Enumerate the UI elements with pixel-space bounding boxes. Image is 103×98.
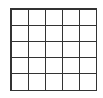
grid-cell[interactable]	[45, 9, 63, 26]
grid-cell[interactable]	[62, 25, 80, 42]
grid-cell[interactable]	[79, 73, 97, 90]
grid-cell[interactable]	[28, 73, 46, 90]
grid-cell[interactable]	[79, 41, 97, 58]
grid-cell[interactable]	[45, 73, 63, 90]
grid-cell[interactable]	[62, 57, 80, 74]
grid-cell[interactable]	[62, 73, 80, 90]
grid-cell[interactable]	[62, 41, 80, 58]
grid-cell[interactable]	[45, 41, 63, 58]
grid-cell[interactable]	[28, 25, 46, 42]
grid-cell[interactable]	[79, 25, 97, 42]
grid-cell[interactable]	[11, 57, 29, 74]
grid-cell[interactable]	[28, 57, 46, 74]
grid-cell[interactable]	[45, 25, 63, 42]
grid-cell[interactable]	[28, 9, 46, 26]
grid-cell[interactable]	[11, 25, 29, 42]
grid-cell[interactable]	[79, 57, 97, 74]
grid-cell[interactable]	[28, 41, 46, 58]
grid-cell[interactable]	[45, 57, 63, 74]
grid-cell[interactable]	[11, 73, 29, 90]
grid-cell[interactable]	[11, 9, 29, 26]
grid-cell[interactable]	[62, 9, 80, 26]
grid-cell[interactable]	[79, 9, 97, 26]
grid-cell[interactable]	[11, 41, 29, 58]
game-grid	[10, 8, 97, 91]
